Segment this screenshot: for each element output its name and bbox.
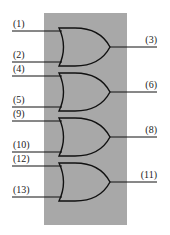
or-gate-diagram: (1)(2)(3)(4)(5)(6)(9)(10)(8)(12)(13)(11) (0, 0, 170, 235)
pin-label: (1) (13, 18, 25, 30)
pin-label: (4) (13, 63, 25, 75)
pin-label: (5) (13, 94, 25, 106)
pin-label: (8) (145, 124, 157, 136)
pin-label: (3) (145, 34, 157, 46)
pin-label: (12) (13, 153, 30, 165)
pin-label: (2) (13, 49, 25, 61)
pin-label: (9) (13, 108, 25, 120)
pin-label: (11) (141, 169, 157, 181)
pin-label: (10) (13, 139, 30, 151)
pin-label: (6) (145, 79, 157, 91)
pin-label: (13) (13, 184, 30, 196)
